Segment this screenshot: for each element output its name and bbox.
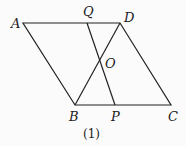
figure-caption: (1) xyxy=(83,128,100,140)
label-b: B xyxy=(69,110,79,123)
label-d: D xyxy=(124,11,134,24)
label-c: C xyxy=(168,110,178,123)
label-o: O xyxy=(105,57,116,70)
label-a: A xyxy=(11,17,20,30)
label-p: P xyxy=(111,110,120,123)
geometry-diagram: A Q D O B P C (1) xyxy=(0,0,186,146)
diagram-lines xyxy=(0,0,186,146)
label-q: Q xyxy=(83,5,94,18)
